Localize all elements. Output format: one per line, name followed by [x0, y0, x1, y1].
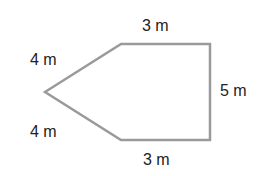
- label-right-side: 5 m: [220, 83, 247, 99]
- label-top-side: 3 m: [142, 18, 169, 34]
- label-bottom-side: 3 m: [143, 152, 170, 168]
- label-lower-left-side: 4 m: [30, 124, 57, 140]
- label-upper-left-side: 4 m: [30, 52, 57, 68]
